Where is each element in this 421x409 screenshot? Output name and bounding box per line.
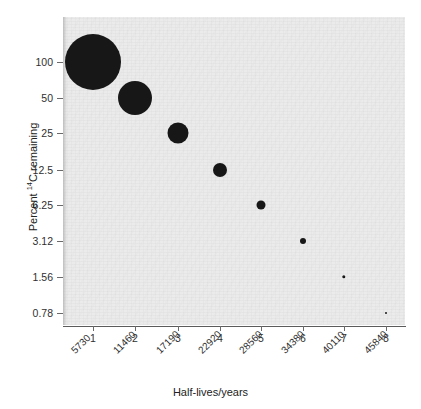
x-tick-mark (93, 326, 94, 331)
data-point-bubble (213, 163, 227, 177)
y-tick-mark (57, 133, 63, 134)
data-point-bubble (118, 81, 152, 115)
y-axis-title: Percent 14C remaining (27, 92, 39, 262)
chart-figure: 100502512.56.253.121.560.78 12345678 573… (0, 0, 421, 409)
x-tick-mark (178, 326, 179, 331)
data-point-bubble (65, 34, 121, 90)
y-tick-mark (57, 277, 63, 278)
x-axis-line (63, 326, 406, 327)
x-tick-mark (135, 326, 136, 331)
y-tick-mark (57, 62, 63, 63)
x-tick-mark (386, 326, 387, 331)
data-point-bubble (342, 275, 345, 278)
y-tick-label: 100 (0, 57, 53, 68)
data-point-bubble (385, 312, 387, 314)
x-secondary-tick-label: 5730 (69, 332, 93, 356)
y-tick-mark (57, 205, 63, 206)
x-tick-mark (303, 326, 304, 331)
y-axis-title-prefix: Percent (27, 190, 39, 231)
y-axis-title-superscript: 14 (25, 182, 34, 190)
data-point-bubble (257, 201, 266, 210)
y-tick-label: 0.78 (0, 308, 53, 319)
data-point-bubble (168, 123, 189, 144)
x-tick-mark (344, 326, 345, 331)
y-tick-label: 1.56 (0, 272, 53, 283)
plot-area (63, 17, 405, 325)
x-tick-mark (220, 326, 221, 331)
x-axis-title: Half-lives/years (0, 386, 421, 399)
y-tick-mark (57, 170, 63, 171)
y-tick-mark (57, 313, 63, 314)
y-axis-title-suffix: C remaining (27, 123, 39, 182)
y-tick-mark (57, 98, 63, 99)
data-point-bubble (300, 238, 306, 244)
x-tick-mark (261, 326, 262, 331)
y-tick-mark (57, 241, 63, 242)
